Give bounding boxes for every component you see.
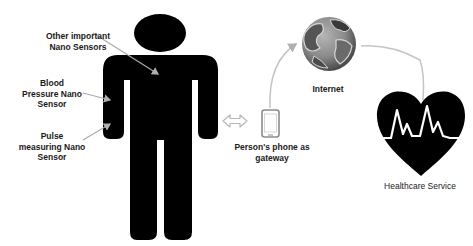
nano-sensor-iot-diagram: Other important Nano Sensors Blood Press… [0,0,473,246]
other-sensors-label: Other important Nano Sensors [28,31,128,52]
heart-pulse-icon [377,91,465,176]
phone-gateway-label: Person's phone as gateway [232,142,312,163]
phone-to-internet-arrow [270,44,296,108]
smartphone-icon [262,110,279,137]
globe-icon [302,17,356,71]
internet-label: Internet [298,84,358,95]
double-arrow-icon [223,115,247,127]
healthcare-service-label: Healthcare Service [370,181,470,192]
pulse-sensor-label: Pulse measuring Nano Sensor [10,131,94,163]
internet-to-healthcare-arrow [361,46,424,100]
blood-pressure-sensor-label: Blood Pressure Nano Sensor [12,78,92,110]
